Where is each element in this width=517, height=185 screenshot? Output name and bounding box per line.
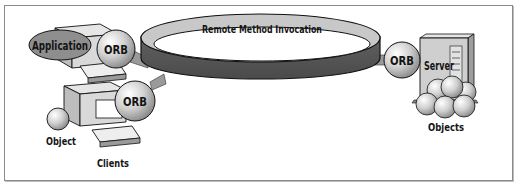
client-1-orb: ORB: [97, 30, 135, 68]
application-label: Application: [32, 39, 88, 53]
ring-label: Remote Method Invocation: [202, 23, 322, 36]
orb-rmi-diagram: Remote Method Invocation Application ORB…: [0, 0, 517, 185]
server-orb-label: ORB: [390, 54, 414, 68]
objects-label: Objects: [428, 121, 464, 134]
object-label: Object: [46, 135, 76, 148]
server-orb: ORB: [384, 42, 420, 78]
application-badge: Application: [29, 30, 91, 60]
clients-label: Clients: [97, 157, 129, 170]
client-2-orb-label: ORB: [123, 95, 147, 109]
client-2-orb: ORB: [115, 81, 155, 121]
server-label: Server: [424, 59, 454, 73]
rmi-ring: Remote Method Invocation: [141, 14, 380, 79]
client-1-orb-label: ORB: [104, 43, 128, 57]
